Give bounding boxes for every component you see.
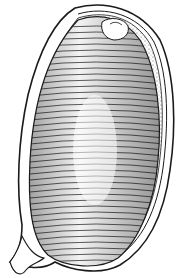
- seed-section-drawing: [0, 0, 177, 278]
- illustration: [0, 0, 177, 278]
